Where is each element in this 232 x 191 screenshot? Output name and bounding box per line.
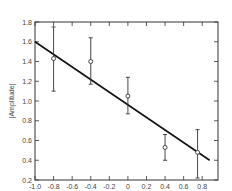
amplitude-chart: -1.0-0.8-0.6-0.4-0.200.20.40.60.8 0.20.4…: [0, 0, 232, 191]
data-point: [196, 130, 200, 178]
data-point: [163, 135, 167, 161]
x-tick-label: 0.2: [142, 183, 152, 190]
plot-axes: [35, 22, 218, 180]
y-tick-label: 1.0: [22, 98, 32, 105]
x-tick-label: -0.8: [48, 183, 60, 190]
y-tick-label: 0.4: [22, 157, 32, 164]
open-circle-marker: [163, 145, 167, 149]
x-tick-label: -1.0: [29, 183, 41, 190]
y-axis-label: |Amplitude|: [8, 83, 16, 118]
linear-fit-line: [35, 42, 210, 161]
data-point: [89, 38, 93, 84]
y-tick-label: 0.2: [22, 177, 32, 184]
y-tick-label: 0.6: [22, 137, 32, 144]
data-point: [126, 77, 130, 114]
plot-frame: [35, 22, 218, 180]
y-tick-label: 1.8: [22, 19, 32, 26]
open-circle-marker: [89, 60, 93, 64]
x-tick-label: -0.6: [66, 183, 78, 190]
open-circle-marker: [196, 150, 200, 154]
x-tick-label: -0.2: [103, 183, 115, 190]
x-tick-label: 0.6: [179, 183, 189, 190]
x-tick-label: 0.8: [197, 183, 207, 190]
y-tick-label: 0.8: [22, 117, 32, 124]
data-point: [52, 27, 56, 91]
open-circle-marker: [126, 94, 130, 98]
y-axis-ticks: 0.20.40.60.81.01.21.41.61.8: [22, 19, 218, 184]
fit-line: [35, 42, 210, 161]
x-tick-label: -0.4: [85, 183, 97, 190]
y-tick-label: 1.4: [22, 58, 32, 65]
x-axis-ticks: -1.0-0.8-0.6-0.4-0.200.20.40.60.8: [29, 22, 207, 190]
y-tick-label: 1.2: [22, 78, 32, 85]
x-tick-label: 0.4: [160, 183, 170, 190]
open-circle-marker: [52, 57, 56, 61]
x-tick-label: 0: [126, 183, 130, 190]
y-tick-label: 1.6: [22, 38, 32, 45]
